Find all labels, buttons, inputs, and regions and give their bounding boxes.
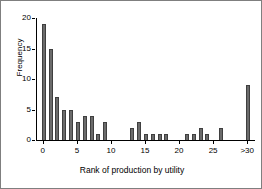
x-tick-mark <box>111 141 112 144</box>
histogram-figure: Frequency 05101520 0510152025>30 Rank of… <box>0 0 262 189</box>
bar-series <box>37 18 255 140</box>
x-tick-mark <box>179 141 180 144</box>
y-tick-mark <box>32 49 35 50</box>
x-tick-label: 20 <box>166 146 192 155</box>
y-tick-label: 10 <box>17 75 31 83</box>
y-tick-mark <box>32 18 35 19</box>
bar <box>205 134 209 140</box>
bar <box>144 134 148 140</box>
bar <box>42 24 46 140</box>
x-tick-mark <box>213 141 214 144</box>
x-axis-tick-labels: 0510152025>30 <box>36 146 256 158</box>
x-tick-mark <box>77 141 78 144</box>
x-tick-label: 15 <box>132 146 158 155</box>
bar <box>219 128 223 140</box>
y-tick-mark <box>32 110 35 111</box>
bar <box>158 134 162 140</box>
x-tick-mark <box>247 141 248 144</box>
x-tick-label: 0 <box>30 146 56 155</box>
bar <box>90 116 94 140</box>
bar <box>130 128 134 140</box>
bar <box>246 85 250 140</box>
plot-area <box>36 18 255 141</box>
bar <box>137 122 141 140</box>
bar <box>164 134 168 140</box>
x-tick-label: >30 <box>234 146 260 155</box>
x-axis-tick-marks <box>36 141 256 145</box>
bar <box>192 134 196 140</box>
bar <box>103 122 107 140</box>
bar <box>151 134 155 140</box>
bar <box>96 134 100 140</box>
x-axis-title: Rank of production by utility <box>1 165 262 175</box>
bar <box>83 116 87 140</box>
y-tick-mark <box>32 140 35 141</box>
bar <box>55 97 59 140</box>
bar <box>69 110 73 141</box>
bar <box>62 110 66 141</box>
y-axis-tick-labels: 05101520 <box>15 1 31 189</box>
bar <box>199 128 203 140</box>
y-tick-mark <box>32 79 35 80</box>
bar <box>185 134 189 140</box>
x-tick-label: 10 <box>98 146 124 155</box>
y-tick-label: 0 <box>17 136 31 144</box>
y-tick-label: 20 <box>17 14 31 22</box>
y-tick-label: 15 <box>17 45 31 53</box>
bar <box>49 49 53 141</box>
y-tick-label: 5 <box>17 106 31 114</box>
x-tick-label: 25 <box>200 146 226 155</box>
x-tick-label: 5 <box>64 146 90 155</box>
x-tick-mark <box>145 141 146 144</box>
bar <box>76 122 80 140</box>
x-tick-mark <box>43 141 44 144</box>
